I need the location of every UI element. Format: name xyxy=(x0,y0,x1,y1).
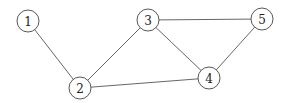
edge-1-2 xyxy=(28,21,80,88)
graph-diagram: 12345 xyxy=(0,0,289,103)
node-2: 2 xyxy=(69,77,91,99)
edge-3-5 xyxy=(148,19,262,20)
node-5: 5 xyxy=(251,8,273,30)
edge-3-4 xyxy=(148,20,209,78)
node-label: 4 xyxy=(205,72,213,86)
edge-2-3 xyxy=(80,20,148,88)
graph-svg: 12345 xyxy=(0,0,289,103)
edge-2-4 xyxy=(80,78,209,88)
node-3: 3 xyxy=(137,9,159,31)
node-4: 4 xyxy=(198,67,220,89)
node-1: 1 xyxy=(17,10,39,32)
node-label: 5 xyxy=(258,13,266,27)
node-label: 1 xyxy=(24,15,32,29)
edge-4-5 xyxy=(209,19,262,78)
node-label: 3 xyxy=(144,14,152,28)
nodes-layer: 12345 xyxy=(17,8,273,99)
node-label: 2 xyxy=(76,82,84,96)
